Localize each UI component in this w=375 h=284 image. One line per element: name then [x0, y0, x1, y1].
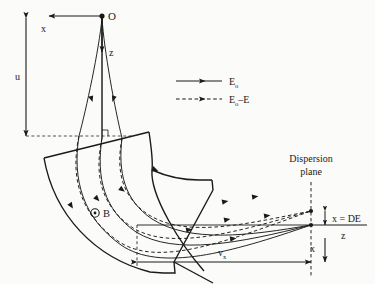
- traj-arrow-6: [224, 216, 231, 222]
- legend-dashed-arrowhead: [199, 96, 206, 101]
- trajectory-dashed-center: [99, 138, 311, 239]
- traj-arrow-9: [252, 194, 259, 200]
- traj-arrow-3: [118, 186, 126, 194]
- legend: Eo Eo–E: [176, 76, 249, 107]
- sector-outer-corner: [163, 262, 175, 273]
- figure-canvas: O x z u B: [0, 0, 375, 284]
- x-axis-right-label: x: [310, 243, 315, 254]
- legend-label-e0: Eo: [229, 76, 238, 89]
- traj-arrow-1: [67, 202, 75, 210]
- z-axis-top-label: z: [109, 47, 114, 58]
- beam-left-arrowhead: [88, 95, 95, 103]
- vx-dimension-label: vx: [218, 247, 227, 260]
- source-point-label: O: [108, 10, 116, 22]
- b-field-dot-icon: [94, 212, 97, 215]
- mass-spectrometer-diagram: O x z u B: [0, 0, 375, 284]
- z-axis-right-label: z: [341, 230, 346, 241]
- beam-right-upper: [102, 18, 122, 138]
- beam-left-upper: [79, 18, 102, 136]
- trajectory-solid-inner: [121, 138, 311, 235]
- traj-arrow-7: [222, 199, 229, 205]
- legend-label-e0-minus-e: Eo–E: [229, 94, 249, 107]
- traj-arrow-8: [264, 213, 271, 219]
- focal-point-dashed: [309, 209, 313, 213]
- trajectory-dashed-outer: [76, 136, 311, 252]
- u-dimension-label: u: [15, 71, 20, 82]
- b-field-label: B: [103, 208, 110, 219]
- trajectory-dashed-inner: [120, 138, 311, 227]
- beam-right-arrowhead: [110, 95, 116, 102]
- trajectory-solid-outer: [77, 136, 311, 258]
- sector-inner-upper: [152, 170, 212, 180]
- sector-inner-arc: [149, 132, 204, 271]
- trajectory-solid-center: [100, 138, 311, 245]
- focal-offset-label: x = DE: [332, 213, 361, 224]
- right-angle-marker: [102, 130, 108, 136]
- sector-inner-corner: [212, 180, 213, 190]
- dispersion-plane-label-line2: plane: [300, 166, 322, 177]
- dispersion-plane-label-line1: Dispersion: [289, 153, 332, 164]
- traj-arrow-2: [93, 195, 101, 203]
- sector-exit-face-lower: [174, 262, 213, 283]
- x-axis-top-label: x: [41, 23, 46, 34]
